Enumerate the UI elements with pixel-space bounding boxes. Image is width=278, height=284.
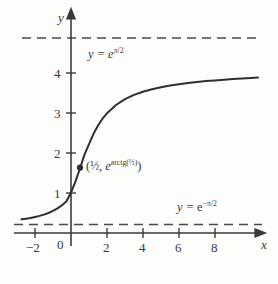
marked-point-x-value: ½ xyxy=(90,159,99,173)
asymptote-lower-base: e xyxy=(194,200,203,214)
marked-point-exponent: arctg(½) xyxy=(111,158,137,167)
figure-plot-e-arctg: y x −2 0 2 4 6 8 1 2 3 4 y =eπ/2 y =e−π/… xyxy=(0,0,278,284)
asymptote-lower-label: y =e−π/2 xyxy=(177,200,217,214)
x-tick-label-4: 4 xyxy=(139,241,146,254)
marked-point-close-paren: ) xyxy=(137,159,141,173)
y-tick-label-4: 4 xyxy=(54,67,61,80)
asymptote-upper-lhs: y = xyxy=(88,47,105,61)
asymptote-lower-exponent: −π/2 xyxy=(203,199,217,208)
asymptote-upper-exponent: π/2 xyxy=(114,46,124,55)
y-axis-label: y xyxy=(58,11,64,24)
marked-point-base: e xyxy=(102,159,111,173)
x-tick-label-2: 2 xyxy=(103,241,110,254)
marked-point-label: (½,earctg(½)) xyxy=(86,159,141,173)
y-tick-label-2: 2 xyxy=(54,147,61,160)
x-tick-label-minus2: −2 xyxy=(26,241,40,254)
x-axis-label: x xyxy=(261,238,267,251)
x-tick-label-8: 8 xyxy=(211,241,218,254)
y-tick-label-1: 1 xyxy=(54,187,61,200)
marked-point-exponent-fn: arctg( xyxy=(111,158,129,167)
marked-point-dot xyxy=(77,165,83,171)
x-tick-label-0: 0 xyxy=(57,238,64,251)
asymptote-upper-base: e xyxy=(105,47,114,61)
asymptote-lower-lhs: y = xyxy=(177,200,194,214)
asymptote-upper-label: y =eπ/2 xyxy=(88,47,124,61)
x-tick-label-6: 6 xyxy=(175,241,182,254)
y-tick-label-3: 3 xyxy=(54,107,61,120)
